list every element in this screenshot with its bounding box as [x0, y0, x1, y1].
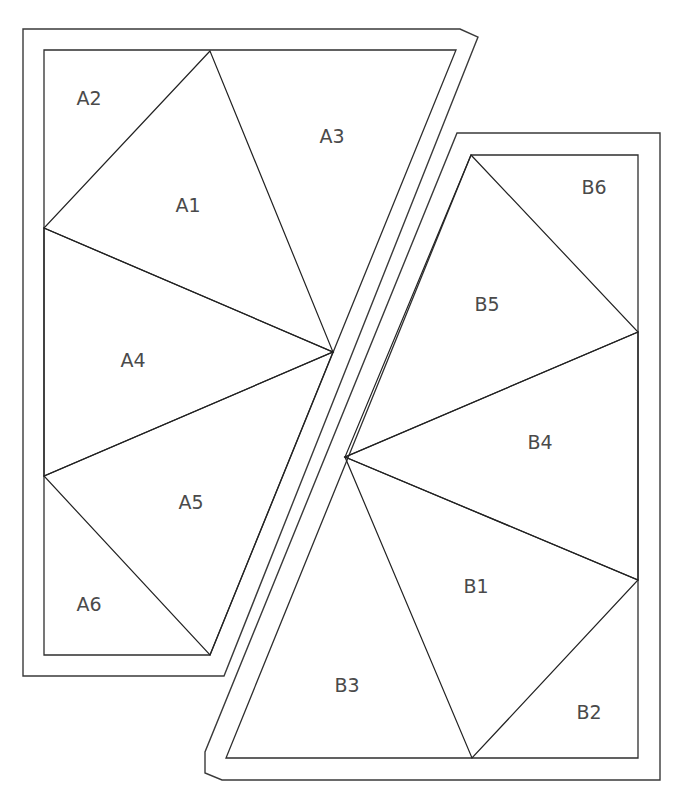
pattern-diagram: A2 A3 A1 A4 A5 A6 B6 B5 B4 B1 B3 B2	[0, 0, 683, 802]
label-a2: A2	[76, 87, 101, 109]
label-a3: A3	[319, 125, 344, 147]
label-b2: B2	[576, 701, 601, 723]
label-b3: B3	[334, 674, 359, 696]
label-b4: B4	[527, 431, 552, 453]
label-b1: B1	[463, 575, 488, 597]
label-a4: A4	[120, 349, 145, 371]
label-a5: A5	[178, 491, 203, 513]
label-a6: A6	[76, 593, 101, 615]
label-b6: B6	[581, 176, 606, 198]
label-b5: B5	[474, 293, 499, 315]
label-a1: A1	[175, 194, 200, 216]
